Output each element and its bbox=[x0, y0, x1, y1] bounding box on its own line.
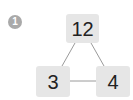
node-left: 3 bbox=[36, 66, 70, 97]
node-right-value: 4 bbox=[107, 72, 118, 92]
node-top-value: 12 bbox=[71, 19, 93, 39]
node-top: 12 bbox=[66, 14, 99, 43]
edge-top-left bbox=[62, 43, 75, 66]
node-right: 4 bbox=[96, 66, 130, 97]
edge-top-right bbox=[91, 43, 104, 66]
node-left-value: 3 bbox=[47, 72, 58, 92]
